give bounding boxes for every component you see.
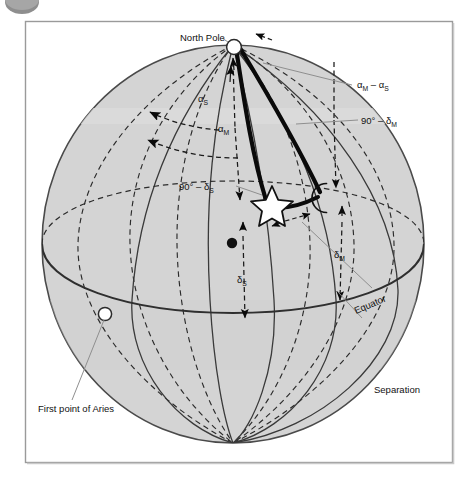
label-separation: Separation (374, 384, 420, 395)
alpha-diff-operator: – (368, 79, 379, 90)
label-first-point-of-aries: First point of Aries (38, 403, 114, 414)
sphere-center-dot-icon (227, 238, 237, 248)
first-point-of-aries-marker-icon (98, 307, 111, 320)
svg-text:90° – δS: 90° – δS (179, 181, 214, 194)
figure-root: North Pole αM – αS 90° – δM 90° – δS αS (0, 0, 470, 481)
alpha-s-subscript: S (384, 85, 389, 92)
colat-s-subscript: S (209, 187, 214, 194)
delta-s-sub: S (242, 280, 247, 287)
alpha-m-sub: M (224, 129, 230, 136)
label-colatitude-sun: 90° – δS (179, 181, 214, 194)
colat-s-prefix: 90° – (179, 181, 204, 192)
north-pole-marker-icon (227, 40, 242, 55)
colat-m-subscript: M (391, 121, 397, 128)
celestial-sphere-figure: North Pole αM – αS 90° – δM 90° – δS αS (0, 0, 470, 481)
alpha-s-sub: S (204, 99, 209, 106)
colat-m-prefix: 90° – (361, 115, 386, 126)
label-north-pole: North Pole (180, 32, 225, 43)
delta-m-sub: M (339, 255, 345, 262)
